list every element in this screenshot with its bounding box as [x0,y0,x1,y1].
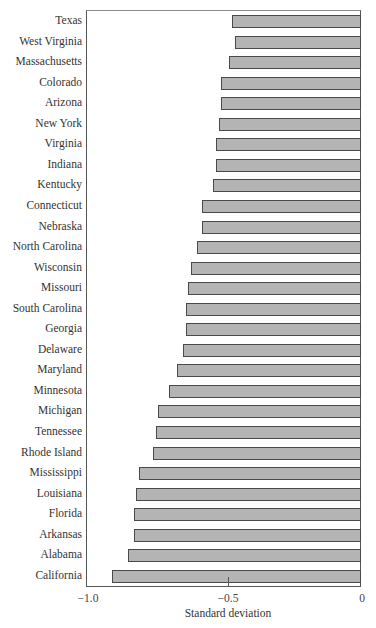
bar-row: Virginia [0,135,376,155]
category-label: Michigan [38,404,82,416]
x-tick-label-minus-0-5: −0.5 [218,592,239,604]
bar [186,323,361,336]
bar-row: Kentucky [0,176,376,196]
category-label: Colorado [39,76,82,88]
bar [219,118,361,131]
category-label: Louisiana [37,487,82,499]
category-label: Georgia [45,322,82,334]
bar [134,508,361,521]
bar-row: Alabama [0,546,376,566]
bar [191,262,361,275]
category-label: North Carolina [13,240,82,252]
bar-row: Texas [0,12,376,32]
category-label: Kentucky [37,178,82,190]
bar-row: Mississippi [0,464,376,484]
bar [232,15,361,28]
bar-row: North Carolina [0,238,376,258]
bar-row: Arkansas [0,526,376,546]
bar [188,282,361,295]
bar-row: West Virginia [0,33,376,53]
category-label: Delaware [38,343,82,355]
bar-row: Georgia [0,320,376,340]
bar-row: Indiana [0,156,376,176]
bar-row: Michigan [0,402,376,422]
bar-row: Nebraska [0,218,376,238]
category-label: Rhode Island [21,446,82,458]
category-label: West Virginia [19,35,82,47]
category-label: Maryland [37,363,82,375]
category-label: Alabama [40,548,82,560]
category-label: Virginia [45,137,82,149]
bar-row: Delaware [0,341,376,361]
bar-row: Wisconsin [0,259,376,279]
category-label: Arizona [45,96,82,108]
category-label: Mississippi [30,466,82,478]
category-label: Massachusetts [16,55,82,67]
category-label: Minnesota [33,384,82,396]
category-label: Wisconsin [34,261,82,273]
x-tick-label-minus-1: −1.0 [78,592,99,604]
bar-row: Maryland [0,361,376,381]
bar-row: Rhode Island [0,444,376,464]
bar-row: Minnesota [0,382,376,402]
bar-row: California [0,567,376,587]
bar [153,447,361,460]
bar-row: Louisiana [0,485,376,505]
x-axis-title: Standard deviation [185,607,272,619]
bar-row: Florida [0,505,376,525]
bar [229,56,361,69]
category-label: Texas [55,14,82,26]
bar-chart: TexasWest VirginiaMassachusettsColoradoA… [0,0,376,628]
bar [139,467,361,480]
bar [158,405,361,418]
bar [177,364,361,377]
category-label: South Carolina [13,302,82,314]
category-label: Nebraska [39,220,82,232]
bar [221,77,361,90]
bar [128,549,361,562]
bar [221,97,361,110]
x-tick-label-zero: 0 [359,592,365,604]
bar [156,426,362,439]
bar [134,529,361,542]
category-label: Indiana [48,158,82,170]
bar [213,179,361,192]
bar-row: South Carolina [0,300,376,320]
bar [183,344,361,357]
category-label: Tennessee [35,425,82,437]
bar [235,36,361,49]
category-label: Connecticut [26,199,82,211]
bar [169,385,361,398]
bar [186,303,361,316]
bar-row: Massachusetts [0,53,376,73]
x-tick-minus-0-5 [228,577,229,587]
category-label: California [35,569,82,581]
bar-row: Colorado [0,74,376,94]
bar-row: Missouri [0,279,376,299]
category-label: Arkansas [39,528,82,540]
bar [216,138,361,151]
bar [197,241,361,254]
bar-row: New York [0,115,376,135]
bar [202,200,361,213]
category-label: Florida [49,507,82,519]
category-label: Missouri [41,281,82,293]
bar [202,221,361,234]
bar [112,570,361,583]
bar [216,159,361,172]
bar [136,488,361,501]
bar-row: Connecticut [0,197,376,217]
bar-row: Arizona [0,94,376,114]
category-label: New York [35,117,82,129]
bar-row: Tennessee [0,423,376,443]
